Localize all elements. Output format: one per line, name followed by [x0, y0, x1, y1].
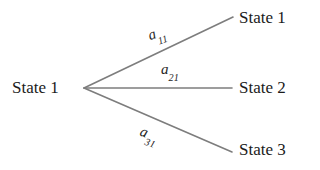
- target-node-label-state-1: State 1: [239, 9, 286, 26]
- target-node-label-state-2: State 2: [239, 79, 286, 96]
- target-node-label-state-3: State 3: [239, 141, 286, 158]
- edge-label-a21-subscript: 21: [169, 72, 180, 83]
- edge-line-a31: [84, 88, 232, 152]
- edge-label-a21: a21: [161, 62, 179, 77]
- state-transition-diagram: State 1 State 1 State 2 State 3 a11 a21 …: [0, 0, 320, 170]
- source-node-label: State 1: [12, 79, 59, 96]
- edge-label-a21-base: a: [161, 61, 169, 77]
